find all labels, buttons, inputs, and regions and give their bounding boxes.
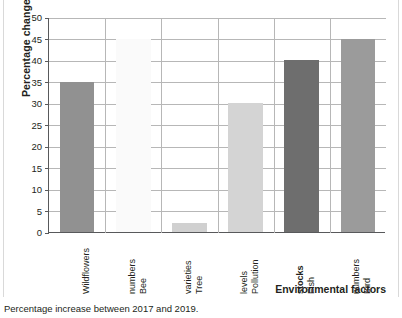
figure-caption: Percentage increase between 2017 and 201… [4,303,198,314]
y-axis-tick-label: 35 [31,78,42,88]
y-axis-tick-label: 45 [31,35,42,45]
y-axis-title: Percentage change [20,0,32,128]
bar [172,223,207,232]
bar [228,103,263,232]
y-axis-tick-label: 30 [31,99,42,109]
y-axis-tick-mark [45,233,49,234]
bar [284,60,319,232]
bar-chart-figure: Percentage change 05101520253035404550 W… [0,0,402,318]
y-axis-tick-label: 40 [31,56,42,66]
page-border-right [398,0,399,297]
y-axis-tick-label: 25 [31,121,42,131]
plot-area: 05101520253035404550 [48,18,385,233]
bar [341,39,376,233]
y-axis-tick-label: 10 [31,185,42,195]
y-axis-tick-label: 50 [31,13,42,23]
bar [116,39,151,233]
y-axis-tick-label: 15 [31,164,42,174]
x-axis-title: Environmental factors [0,283,386,295]
y-axis-tick-label: 0 [37,228,42,238]
bar [60,82,95,233]
page-border-left [3,0,4,297]
bar-series [49,17,386,232]
y-axis-tick-label: 5 [37,207,42,217]
y-axis-tick-label: 20 [31,142,42,152]
